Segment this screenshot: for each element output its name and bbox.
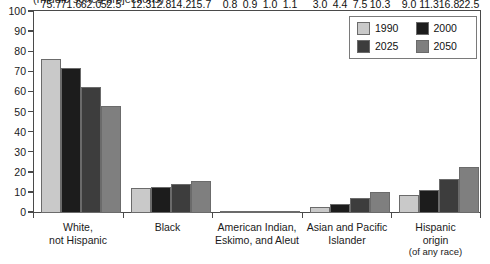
x-category-line1: Black xyxy=(123,221,212,234)
y-tick-mark xyxy=(28,151,33,152)
bar-2050 xyxy=(101,106,121,213)
legend-swatch-icon xyxy=(416,22,429,35)
legend-label: 1990 xyxy=(375,23,398,34)
legend-swatch-icon xyxy=(357,22,370,35)
bar-2000 xyxy=(151,187,171,213)
bar-value-label: 15.7 xyxy=(191,0,211,9)
bar-slot: 71.6 xyxy=(61,10,81,213)
y-tick-mark xyxy=(28,131,33,132)
bar-1990 xyxy=(220,211,240,213)
bar-slot: 1.1 xyxy=(280,10,300,213)
y-tick-label: 40 xyxy=(14,126,26,138)
y-tick-label: 30 xyxy=(14,146,26,158)
bar-2050 xyxy=(191,181,211,213)
legend: 1990 2000 2025 2050 xyxy=(349,16,477,59)
bar-slot: 0.8 xyxy=(220,10,240,213)
y-tick-label: 10 xyxy=(14,186,26,198)
x-category-line1: Hispanic xyxy=(391,221,480,234)
bar-1990 xyxy=(399,195,419,213)
bar-value-label: 7.5 xyxy=(353,0,368,9)
bar-2000 xyxy=(61,68,81,213)
y-tick-mark xyxy=(28,30,33,31)
bar-value-label: 71.6 xyxy=(61,0,81,9)
x-tick-mark xyxy=(302,212,303,218)
y-tick-mark xyxy=(28,171,33,172)
bar-slot: 1.0 xyxy=(260,10,280,213)
bar-value-label: 14.2 xyxy=(171,0,191,9)
y-tick-label: 80 xyxy=(14,45,26,57)
x-tick-mark xyxy=(480,212,481,218)
bar-slot: 14.2 xyxy=(171,10,191,213)
bar-2050 xyxy=(280,211,300,213)
bar-2000 xyxy=(240,211,260,213)
legend-swatch-icon xyxy=(357,40,370,53)
bar-value-label: 1.1 xyxy=(283,0,298,9)
bar-slot: 12.3 xyxy=(131,10,151,213)
bar-group-american-indian-eskimo-aleut: 0.8 0.9 1.0 1.1 xyxy=(220,10,300,213)
x-tick-mark xyxy=(391,212,392,218)
legend-swatch-icon xyxy=(416,40,429,53)
x-category-line2: Islander xyxy=(300,234,394,247)
x-tick-mark xyxy=(33,212,34,218)
legend-item-2025: 2025 xyxy=(357,40,412,53)
y-tick-label: 90 xyxy=(14,25,26,37)
y-tick-mark xyxy=(28,111,33,112)
bar-value-label: 12.3 xyxy=(131,0,151,9)
bar-2025 xyxy=(171,184,191,213)
x-category-label-white-not-hispanic: White, not Hispanic xyxy=(28,221,128,246)
y-tick-label: 50 xyxy=(14,106,26,118)
bar-2025 xyxy=(439,179,459,213)
legend-item-2000: 2000 xyxy=(416,22,471,35)
y-tick-mark xyxy=(28,191,33,192)
legend-label: 2025 xyxy=(375,41,398,52)
x-category-line1: White, xyxy=(28,221,128,234)
bar-value-label: 9.0 xyxy=(402,0,417,9)
y-tick-mark xyxy=(28,51,33,52)
bar-value-label: 3.0 xyxy=(313,0,328,9)
x-category-line2: origin xyxy=(391,234,480,247)
bar-value-label: 22.5 xyxy=(459,0,479,9)
bar-2000 xyxy=(419,190,439,213)
legend-label: 2000 xyxy=(434,23,457,34)
bar-slot: 3.0 xyxy=(310,10,330,213)
bar-value-label: 1.0 xyxy=(263,0,278,9)
bar-slot: 52.5 xyxy=(101,10,121,213)
y-tick-label: 20 xyxy=(14,166,26,178)
x-category-line2: Eskimo, and Aleut xyxy=(204,234,310,247)
bar-chart: (middle series projections) 100 90 80 70… xyxy=(0,0,490,264)
x-category-line1: American Indian, xyxy=(204,221,310,234)
x-category-line1: Asian and Pacific xyxy=(300,221,394,234)
y-tick-label: 0 xyxy=(20,206,26,218)
bar-slot: 15.7 xyxy=(191,10,211,213)
x-category-label-black: Black xyxy=(123,221,212,234)
legend-label: 2050 xyxy=(434,41,457,52)
bar-value-label: 52.5 xyxy=(101,0,121,9)
bar-value-label: 0.8 xyxy=(223,0,238,9)
bar-1990 xyxy=(131,188,151,213)
y-tick-mark xyxy=(28,10,33,11)
bar-2050 xyxy=(370,192,390,213)
bar-2025 xyxy=(350,198,370,213)
bar-2050 xyxy=(459,167,479,213)
y-tick-mark xyxy=(28,71,33,72)
bar-group-white-not-hispanic: 75.7 71.6 62.0 52.5 xyxy=(41,10,121,213)
bar-value-label: 10.3 xyxy=(370,0,390,9)
bar-slot: 75.7 xyxy=(41,10,61,213)
bar-1990 xyxy=(41,59,61,213)
bar-value-label: 0.9 xyxy=(243,0,258,9)
bar-group-black: 12.3 12.8 14.2 15.7 xyxy=(131,10,211,213)
bar-slot: 62.0 xyxy=(81,10,101,213)
bar-value-label: 11.3 xyxy=(419,0,439,9)
x-category-line2: not Hispanic xyxy=(28,234,128,247)
y-tick-label: 100 xyxy=(8,5,26,17)
x-category-line3: (of any race) xyxy=(391,246,480,259)
x-category-label-asian-pacific-islander: Asian and Pacific Islander xyxy=(300,221,394,246)
bar-slot: 4.4 xyxy=(330,10,350,213)
x-category-label-american-indian: American Indian, Eskimo, and Aleut xyxy=(204,221,310,246)
y-tick-label: 60 xyxy=(14,85,26,97)
bar-value-label: 16.8 xyxy=(439,0,459,9)
legend-item-2050: 2050 xyxy=(416,40,471,53)
y-tick-label: 70 xyxy=(14,65,26,77)
x-tick-mark xyxy=(123,212,124,218)
bar-value-label: 62.0 xyxy=(81,0,101,9)
